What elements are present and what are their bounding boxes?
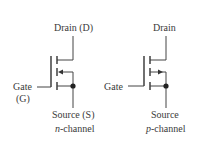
n-channel-caption: n-channel: [55, 123, 95, 134]
n-arrow-inward-icon: [58, 70, 63, 75]
n-channel-mosfet-symbol: Drain (D) Gate (G) Source (S) n-channel: [13, 22, 95, 134]
n-gate-abbrev: (G): [16, 93, 30, 105]
p-gate-label: Gate: [104, 81, 123, 92]
n-gate-label: Gate: [13, 81, 32, 92]
n-source-label: Source (S): [52, 109, 95, 121]
n-drain-label: Drain (D): [54, 22, 93, 34]
mosfet-symbols-diagram: Drain (D) Gate (G) Source (S) n-channel …: [0, 0, 201, 148]
p-source-label: Source: [151, 109, 179, 120]
n-junction-dot-icon: [70, 83, 75, 88]
p-caption-rest: -channel: [151, 123, 186, 134]
p-channel-caption: p-channel: [145, 123, 186, 134]
p-drain-label: Drain: [153, 22, 176, 33]
n-caption-rest: -channel: [60, 123, 95, 134]
p-arrow-outward-icon: [158, 70, 163, 75]
p-channel-mosfet-symbol: Drain Gate Source p-channel: [104, 22, 186, 134]
p-junction-dot-icon: [163, 83, 168, 88]
